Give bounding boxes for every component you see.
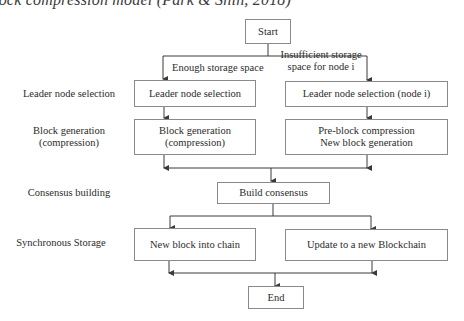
branch-label-insufficient-storage: Insufficient storage space for node i	[280, 49, 362, 73]
branch-label-enough-storage: Enough storage space	[172, 62, 264, 74]
stage-label-line1: Leader node selection	[10, 88, 128, 100]
left-leader-selection-node: Leader node selection	[134, 80, 256, 107]
build-consensus-label: Build consensus	[239, 187, 308, 199]
stage-label-synchronous-storage: Synchronous Storage	[2, 237, 120, 249]
branch-label-line2: space for node i	[280, 61, 362, 73]
stage-label-leader-selection: Leader node selection	[10, 88, 128, 100]
right-block-generation-node: Pre-block compression New block generati…	[285, 119, 448, 155]
right-leader-selection-node: Leader node selection (node i)	[285, 81, 448, 107]
new-block-into-chain-label: New block into chain	[150, 239, 240, 251]
branch-label-line1: Insufficient storage	[280, 49, 362, 61]
stage-label-block-generation: Block generation (compression)	[10, 125, 128, 149]
end-node: End	[248, 286, 304, 309]
right-block-generation-line1: Pre-block compression	[318, 125, 415, 137]
start-node: Start	[245, 19, 291, 44]
end-label: End	[268, 292, 285, 304]
right-block-generation-line2: New block generation	[320, 137, 413, 149]
update-blockchain-node: Update to a new Blockchain	[285, 229, 448, 261]
stage-label-line2: (compression)	[10, 137, 128, 149]
stage-label-line1: Consensus building	[10, 187, 128, 199]
left-leader-selection-label: Leader node selection	[149, 88, 241, 100]
right-leader-selection-label: Leader node selection (node i)	[303, 88, 431, 100]
build-consensus-node: Build consensus	[217, 182, 330, 204]
left-block-generation-line2: (compression)	[165, 137, 225, 149]
stage-label-line1: Block generation	[10, 125, 128, 137]
new-block-into-chain-node: New block into chain	[134, 228, 256, 261]
flow-connectors	[0, 0, 464, 321]
update-blockchain-label: Update to a new Blockchain	[307, 239, 426, 251]
stage-label-line1: Synchronous Storage	[2, 237, 120, 249]
start-label: Start	[258, 26, 278, 38]
left-block-generation-node: Block generation (compression)	[134, 119, 256, 155]
left-block-generation-line1: Block generation	[159, 125, 231, 137]
stage-label-consensus-building: Consensus building	[10, 187, 128, 199]
